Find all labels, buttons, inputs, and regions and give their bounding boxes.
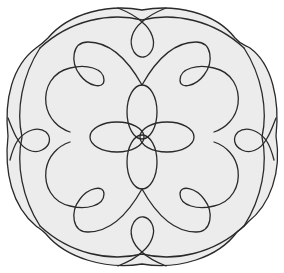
rosette-figure: Rosette knot line drawing: [0, 0, 284, 273]
outer-scalloped-outline: [7, 8, 278, 265]
rosette-drawing: [0, 0, 284, 273]
